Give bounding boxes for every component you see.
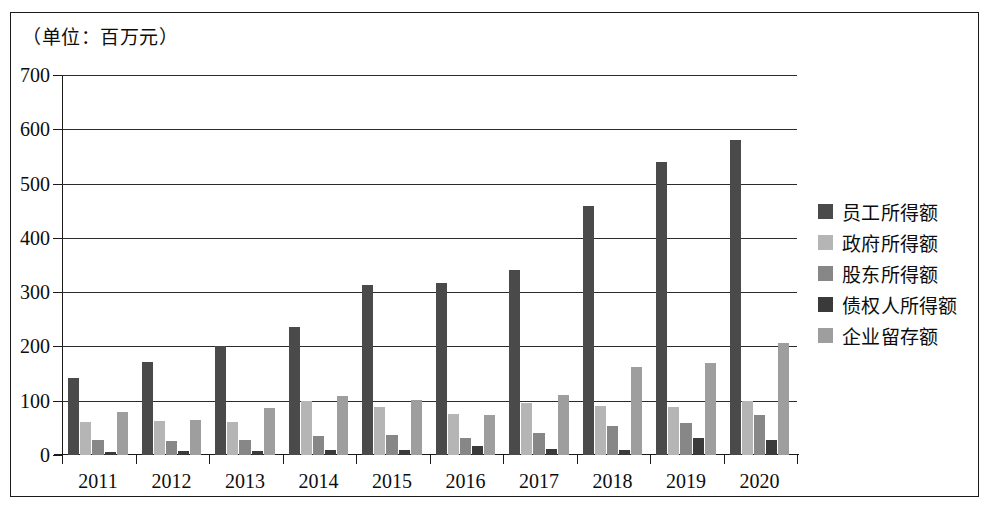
legend-item[interactable]: 债权人所得额 bbox=[818, 289, 958, 320]
bar bbox=[668, 407, 679, 455]
y-axis-tick bbox=[53, 184, 62, 185]
bar bbox=[607, 426, 618, 455]
bar bbox=[436, 283, 447, 455]
bar bbox=[264, 408, 275, 455]
y-axis-tick bbox=[53, 292, 62, 293]
x-axis-tick-label: 2020 bbox=[740, 471, 780, 491]
bar-group bbox=[650, 75, 724, 455]
x-axis-tick bbox=[356, 455, 357, 464]
bar-group bbox=[724, 75, 798, 455]
bar bbox=[448, 414, 459, 455]
y-axis-tick-label: 300 bbox=[20, 282, 50, 302]
x-axis-tick-label: 2016 bbox=[446, 471, 486, 491]
y-axis-tick-label: 600 bbox=[20, 119, 50, 139]
bar-group bbox=[62, 75, 136, 455]
bar bbox=[362, 285, 373, 455]
y-axis-tick-label: 200 bbox=[20, 336, 50, 356]
x-axis-tick bbox=[62, 455, 63, 464]
x-axis-tick-label: 2014 bbox=[299, 471, 339, 491]
bar-group bbox=[136, 75, 210, 455]
unit-caption: （单位：百万元） bbox=[22, 22, 178, 49]
legend-label: 企业留存额 bbox=[842, 322, 939, 349]
y-axis-tick-label: 100 bbox=[20, 391, 50, 411]
bar bbox=[533, 433, 544, 455]
y-axis-tick bbox=[53, 401, 62, 402]
x-axis-tick bbox=[650, 455, 651, 464]
plot-area: 0100200300400500600700201120122013201420… bbox=[62, 75, 797, 455]
legend-item[interactable]: 员工所得额 bbox=[818, 196, 958, 227]
bar bbox=[117, 412, 128, 455]
x-axis-tick bbox=[283, 455, 284, 464]
legend-swatch-icon bbox=[818, 204, 833, 219]
x-axis-tick bbox=[503, 455, 504, 464]
legend-label: 股东所得额 bbox=[842, 260, 939, 287]
bar bbox=[80, 422, 91, 455]
bar bbox=[301, 401, 312, 455]
bar bbox=[484, 415, 495, 455]
y-axis-tick-label: 400 bbox=[20, 228, 50, 248]
x-axis-tick bbox=[797, 455, 798, 464]
y-axis-tick bbox=[53, 238, 62, 239]
x-axis-tick-label: 2015 bbox=[372, 471, 412, 491]
bar-group bbox=[577, 75, 651, 455]
legend-item[interactable]: 政府所得额 bbox=[818, 227, 958, 258]
legend-label: 债权人所得额 bbox=[842, 291, 958, 318]
bar bbox=[227, 422, 238, 455]
bar bbox=[399, 450, 410, 455]
bar-group bbox=[283, 75, 357, 455]
bar bbox=[583, 206, 594, 455]
x-axis-tick-label: 2019 bbox=[666, 471, 706, 491]
bar bbox=[92, 440, 103, 455]
bar bbox=[656, 162, 667, 455]
legend-item[interactable]: 企业留存额 bbox=[818, 320, 958, 351]
bar bbox=[313, 436, 324, 455]
x-axis-tick-label: 2017 bbox=[519, 471, 559, 491]
bar bbox=[558, 395, 569, 455]
y-axis-tick bbox=[53, 129, 62, 130]
bar bbox=[595, 406, 606, 455]
bar bbox=[705, 363, 716, 455]
chart-figure: （单位：百万元） 0100200300400500600700201120122… bbox=[0, 0, 990, 509]
bar bbox=[215, 346, 226, 455]
bar bbox=[386, 435, 397, 455]
bar bbox=[374, 407, 385, 455]
bar bbox=[68, 378, 79, 455]
bar bbox=[693, 438, 704, 455]
x-axis-tick-label: 2011 bbox=[78, 471, 117, 491]
bar bbox=[337, 396, 348, 455]
x-axis-tick bbox=[724, 455, 725, 464]
bar bbox=[460, 438, 471, 455]
y-axis-tick bbox=[53, 346, 62, 347]
bar bbox=[509, 270, 520, 455]
y-axis-tick-label: 500 bbox=[20, 174, 50, 194]
legend-swatch-icon bbox=[818, 297, 833, 312]
y-axis-tick bbox=[53, 455, 62, 456]
x-axis-tick-label: 2018 bbox=[593, 471, 633, 491]
y-axis-tick-label: 0 bbox=[40, 445, 50, 465]
bar bbox=[778, 343, 789, 455]
bar bbox=[754, 415, 765, 455]
bar bbox=[325, 450, 336, 455]
bar bbox=[521, 403, 532, 455]
bar-group bbox=[430, 75, 504, 455]
bar bbox=[154, 421, 165, 455]
x-axis-tick-label: 2013 bbox=[225, 471, 265, 491]
x-axis-tick bbox=[136, 455, 137, 464]
bar bbox=[411, 400, 422, 455]
bar bbox=[631, 367, 642, 455]
y-axis-tick-label: 700 bbox=[20, 65, 50, 85]
chart-legend: 员工所得额政府所得额股东所得额债权人所得额企业留存额 bbox=[818, 196, 958, 351]
bar bbox=[546, 449, 557, 456]
x-axis-tick-label: 2012 bbox=[152, 471, 192, 491]
legend-label: 政府所得额 bbox=[842, 229, 939, 256]
legend-swatch-icon bbox=[818, 328, 833, 343]
bar bbox=[619, 450, 630, 455]
legend-item[interactable]: 股东所得额 bbox=[818, 258, 958, 289]
bar bbox=[239, 440, 250, 455]
x-axis-tick bbox=[209, 455, 210, 464]
bar bbox=[472, 446, 483, 455]
x-axis-tick bbox=[430, 455, 431, 464]
bar bbox=[190, 420, 201, 455]
legend-swatch-icon bbox=[818, 266, 833, 281]
bar bbox=[178, 451, 189, 455]
